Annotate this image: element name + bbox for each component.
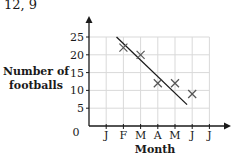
x-tick-label: A [153, 129, 163, 142]
x-axis-arrow-icon [224, 123, 231, 130]
y-tick-label: 25 [70, 31, 84, 44]
y-tick-label: 15 [70, 67, 84, 80]
y-tick-label: 5 [77, 102, 84, 115]
trend-line [117, 37, 188, 105]
x-tick-label: M [169, 129, 180, 142]
origin-label: 0 [73, 126, 80, 139]
y-tick-label: 10 [70, 84, 84, 97]
scatter-chart: 5101520250JFMAMJJ [0, 0, 241, 163]
x-tick-label: M [135, 129, 146, 142]
x-tick-label: J [206, 129, 211, 142]
x-tick-label: J [189, 129, 194, 142]
x-tick-label: F [120, 129, 128, 142]
x-tick-label: J [103, 129, 108, 142]
y-axis-arrow-icon [86, 16, 93, 23]
y-tick-label: 20 [70, 49, 84, 62]
